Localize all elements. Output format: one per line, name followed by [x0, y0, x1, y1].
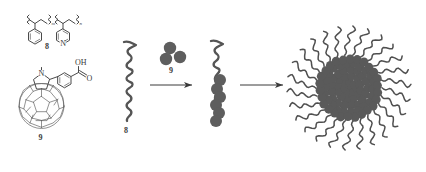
schematic-label-8: 8	[124, 126, 128, 135]
complex-bead	[210, 115, 222, 127]
schematic-label-9: 9	[169, 66, 173, 75]
pyrrolidine-nitrogen-label: N	[39, 69, 45, 78]
fullerene-dot	[164, 42, 176, 54]
fullerene-dot	[160, 53, 172, 65]
nitrogen-atom-label: N	[60, 39, 66, 48]
fullerene-dot	[174, 51, 186, 63]
reaction-scheme: m n N 8 N OH O	[0, 0, 426, 172]
repeat-subscript-m: m	[52, 21, 56, 26]
compound-label-8: 8	[45, 42, 49, 51]
hydroxyl-label: OH	[75, 58, 87, 67]
carbonyl-oxygen-label: O	[86, 74, 92, 83]
core-fullerene	[344, 112, 353, 121]
compound-label-9: 9	[39, 133, 43, 142]
